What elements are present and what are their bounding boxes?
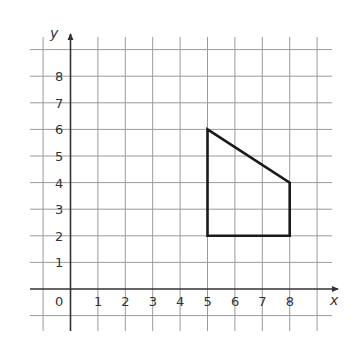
vertical-gridlines xyxy=(43,37,317,331)
x-tick-label: 7 xyxy=(258,294,266,309)
y-tick-label: 4 xyxy=(55,176,63,191)
x-tick-label: 5 xyxy=(204,294,212,309)
x-axis-label: x xyxy=(329,292,339,308)
x-tick-label: 3 xyxy=(149,294,157,309)
y-tick-label: 7 xyxy=(55,96,63,111)
y-tick-label: 2 xyxy=(55,229,63,244)
x-tick-label: 1 xyxy=(94,294,102,309)
y-axis-label: y xyxy=(49,25,59,41)
grid-svg: 12345678 12345678 0 x y xyxy=(0,0,356,337)
x-tick-labels: 12345678 xyxy=(94,294,294,309)
x-tick-label: 8 xyxy=(286,294,294,309)
origin-label: 0 xyxy=(55,294,63,309)
x-tick-label: 6 xyxy=(231,294,239,309)
y-tick-labels: 12345678 xyxy=(55,69,63,270)
y-tick-label: 1 xyxy=(55,255,63,270)
x-tick-label: 4 xyxy=(176,294,184,309)
coordinate-grid-figure: 12345678 12345678 0 x y xyxy=(0,0,356,337)
x-tick-label: 2 xyxy=(121,294,129,309)
y-tick-label: 3 xyxy=(55,202,63,217)
horizontal-gridlines xyxy=(30,50,332,316)
y-tick-label: 5 xyxy=(55,149,63,164)
y-tick-label: 6 xyxy=(55,122,63,137)
y-tick-label: 8 xyxy=(55,69,63,84)
